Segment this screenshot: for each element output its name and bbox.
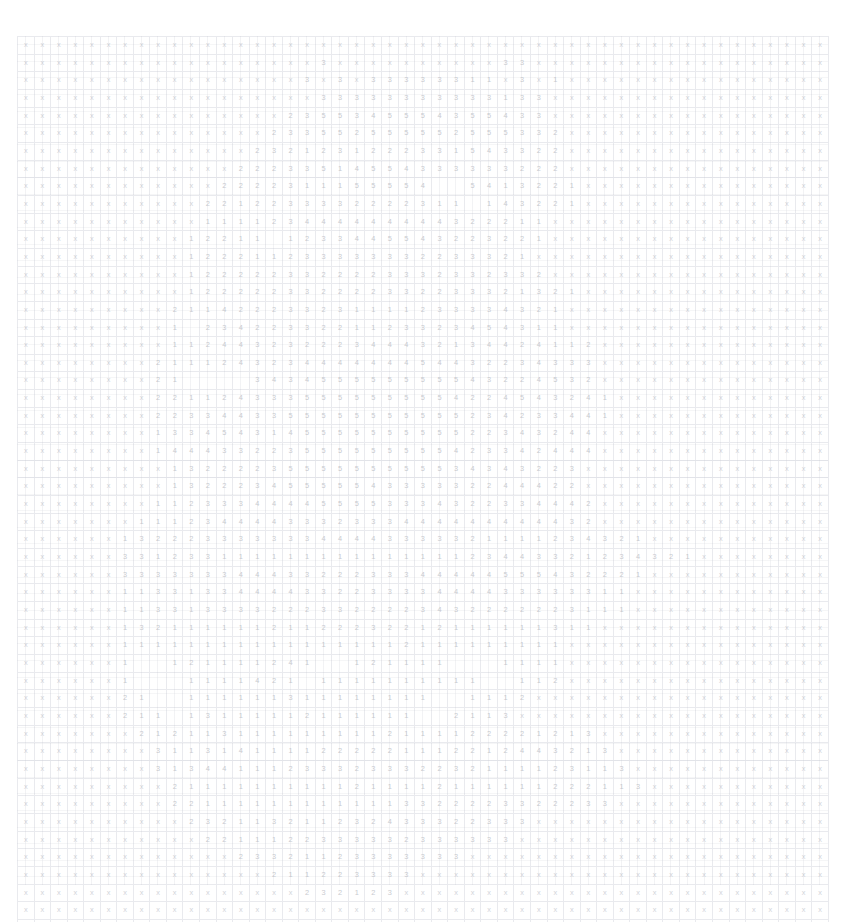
grid-cell-value[interactable]: 4 [365,337,382,355]
grid-cell-masked[interactable]: x [84,725,101,743]
grid-cell-masked[interactable]: x [51,231,68,249]
grid-cell-masked[interactable]: x [762,584,779,602]
grid-cell-value[interactable]: 3 [382,72,399,90]
grid-cell-masked[interactable]: x [84,372,101,390]
grid-cell-value[interactable]: 1 [183,619,200,637]
grid-cell-value[interactable]: 5 [382,443,399,461]
grid-cell-value[interactable]: 3 [382,531,399,549]
grid-cell-value[interactable]: 2 [315,301,332,319]
grid-cell-value[interactable]: 2 [431,266,448,284]
grid-cell-masked[interactable]: x [84,195,101,213]
grid-cell-masked[interactable]: x [34,195,51,213]
grid-cell-masked[interactable]: x [100,125,117,143]
grid-cell-masked[interactable]: x [133,407,150,425]
grid-cell-value[interactable]: 5 [398,231,415,249]
grid-cell-value[interactable]: 4 [431,107,448,125]
grid-cell-value[interactable]: 2 [514,337,531,355]
grid-cell-masked[interactable]: x [183,37,200,55]
grid-cell-masked[interactable]: x [646,425,663,443]
grid-cell-value[interactable]: 1 [233,231,250,249]
grid-cell-value[interactable]: 5 [415,407,432,425]
grid-cell-masked[interactable]: x [630,72,647,90]
grid-cell-masked[interactable]: x [67,301,84,319]
grid-cell-value[interactable]: 2 [233,178,250,196]
grid-cell-masked[interactable]: x [679,37,696,55]
grid-cell-masked[interactable]: x [100,566,117,584]
grid-cell-value[interactable]: 1 [564,337,581,355]
grid-cell-masked[interactable]: x [266,72,283,90]
grid-cell-value[interactable]: 1 [133,584,150,602]
grid-cell-masked[interactable]: x [183,866,200,884]
grid-cell-masked[interactable]: x [779,531,796,549]
grid-cell-masked[interactable]: x [762,549,779,567]
grid-cell-value[interactable]: 3 [481,813,498,831]
grid-cell-value[interactable]: 3 [415,266,432,284]
grid-cell-masked[interactable]: x [597,513,614,531]
grid-cell-masked[interactable]: x [580,37,597,55]
grid-cell-value[interactable]: 2 [117,707,134,725]
grid-cell-masked[interactable]: x [729,72,746,90]
grid-cell-masked[interactable]: x [530,831,547,849]
grid-cell-masked[interactable]: x [51,743,68,761]
grid-cell-value[interactable]: 3 [200,513,217,531]
grid-cell-value[interactable]: 3 [448,831,465,849]
grid-cell-value[interactable]: 2 [530,142,547,160]
grid-cell-value[interactable]: 5 [415,107,432,125]
grid-cell-masked[interactable]: x [51,443,68,461]
grid-cell-value[interactable]: 1 [233,760,250,778]
grid-cell-value[interactable]: 1 [249,637,266,655]
grid-cell-value[interactable]: 2 [448,707,465,725]
grid-cell-value[interactable]: 2 [382,619,399,637]
grid-cell-masked[interactable]: x [117,37,134,55]
grid-cell-masked[interactable]: x [233,866,250,884]
grid-cell-masked[interactable]: x [299,89,316,107]
grid-cell-masked[interactable]: x [84,213,101,231]
grid-cell-value[interactable]: 2 [530,460,547,478]
grid-cell-masked[interactable]: x [795,549,812,567]
grid-cell-value[interactable]: 2 [398,142,415,160]
grid-cell-masked[interactable]: x [166,195,183,213]
grid-cell-value[interactable]: 4 [497,337,514,355]
grid-cell-masked[interactable]: x [51,337,68,355]
grid-cell-masked[interactable]: x [712,178,729,196]
grid-cell-value[interactable]: 2 [282,831,299,849]
grid-cell-masked[interactable]: x [580,284,597,302]
grid-cell-masked[interactable]: x [18,743,35,761]
grid-cell-value[interactable]: 3 [382,866,399,884]
grid-cell-masked[interactable]: x [696,725,713,743]
grid-cell-value[interactable]: 2 [497,743,514,761]
grid-cell-masked[interactable]: x [100,672,117,690]
grid-cell-masked[interactable]: x [67,337,84,355]
grid-cell-value[interactable]: 1 [315,707,332,725]
grid-cell-masked[interactable]: x [530,248,547,266]
grid-cell-value[interactable]: 1 [133,602,150,620]
grid-cell-masked[interactable]: x [696,743,713,761]
grid-cell-masked[interactable]: x [630,725,647,743]
value-grid[interactable]: xxxxxxxxxxxxxxxxxxxxxxxxxxxxxxxxxxxxxxxx… [17,36,829,922]
grid-cell-value[interactable]: 3 [464,266,481,284]
grid-cell-masked[interactable]: x [564,107,581,125]
grid-cell-value[interactable]: 2 [580,778,597,796]
grid-cell-value[interactable]: 2 [216,231,233,249]
grid-cell-masked[interactable]: x [613,513,630,531]
grid-cell-masked[interactable]: x [34,72,51,90]
grid-cell-masked[interactable]: x [580,884,597,902]
grid-cell-value[interactable]: 1 [415,743,432,761]
grid-cell-masked[interactable]: x [200,142,217,160]
grid-cell-value[interactable]: 3 [481,231,498,249]
grid-cell-value[interactable]: 3 [481,407,498,425]
grid-cell-masked[interactable]: x [646,531,663,549]
grid-cell-masked[interactable]: x [464,54,481,72]
grid-cell-masked[interactable]: x [762,425,779,443]
grid-cell-masked[interactable]: x [18,849,35,867]
grid-cell-masked[interactable]: x [597,725,614,743]
grid-cell-value[interactable]: 2 [547,725,564,743]
grid-cell-value[interactable]: 4 [365,531,382,549]
grid-cell-value[interactable]: 3 [282,390,299,408]
grid-cell-masked[interactable]: x [233,72,250,90]
grid-cell-value[interactable]: 1 [564,725,581,743]
grid-cell-value[interactable]: 3 [564,566,581,584]
grid-cell-masked[interactable]: x [166,849,183,867]
grid-cell-value[interactable]: 5 [348,372,365,390]
grid-cell-masked[interactable]: x [266,902,283,920]
